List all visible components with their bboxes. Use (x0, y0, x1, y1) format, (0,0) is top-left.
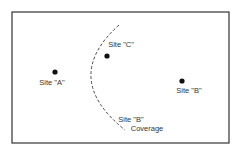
site-c-label: Site "C" (108, 40, 134, 49)
site-a-label: Site "A" (39, 78, 65, 87)
site-a-marker (52, 69, 57, 74)
coverage-label-line2: Coverage (131, 124, 164, 133)
coverage-label-line1: Site "B" (118, 115, 144, 124)
site-b-label: Site "B" (176, 86, 202, 95)
site-c-marker (104, 53, 109, 58)
site-b-marker (179, 78, 184, 83)
coverage-diagram: Site "A" Site "C" Site "B" Site "B" Cove… (0, 0, 240, 148)
